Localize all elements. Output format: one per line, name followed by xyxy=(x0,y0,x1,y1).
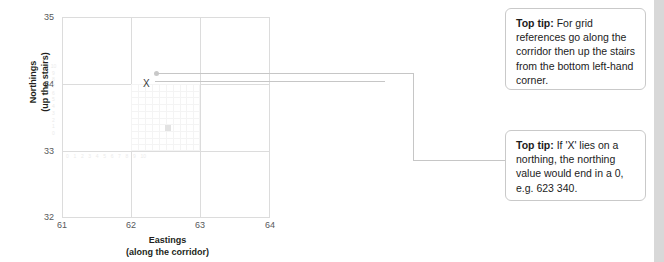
subgrid-x-label: 4 xyxy=(96,153,99,159)
subgrid-y-label: 6 xyxy=(52,91,55,96)
subgrid-y-label: 0 xyxy=(52,131,55,136)
plot-area xyxy=(62,17,270,218)
gridline-v-63 xyxy=(200,17,201,218)
callout-line-top-horizontal xyxy=(157,73,413,74)
x-tick-62: 62 xyxy=(119,220,143,230)
subgrid-y-label: 10 xyxy=(51,64,57,69)
subgrid-y-label: 4 xyxy=(52,104,55,109)
x-axis-title-main: Eastings xyxy=(60,234,275,246)
x-tick-64: 64 xyxy=(258,220,282,230)
gridline-h-35 xyxy=(62,17,270,18)
x-point-label: X xyxy=(143,78,150,89)
gridline-v-61 xyxy=(62,17,63,218)
subgrid-x-label: 6 xyxy=(111,153,114,159)
subgrid-x-label: 5 xyxy=(103,153,106,159)
tip-lead-2: Top tip: xyxy=(516,139,554,151)
subgrid-x-label: 7 xyxy=(118,153,121,159)
y-tick-35: 35 xyxy=(30,12,54,22)
x-tick-63: 63 xyxy=(188,220,212,230)
subgrid-overlay xyxy=(131,84,200,151)
gridline-v-64 xyxy=(269,17,270,218)
subgrid-x-label: 10 xyxy=(140,153,146,159)
subgrid-x-label: 8 xyxy=(126,153,129,159)
subgrid-x-label: 1 xyxy=(73,153,76,159)
page-edge-gutter-highlight xyxy=(652,0,654,262)
grid-reference-chart: 35 34 33 32 61 62 63 64 Northings (up th… xyxy=(0,0,330,262)
subgrid-x-labels: 0 1 2 3 4 5 6 7 8 9 10 xyxy=(66,150,146,161)
subgrid-y-label: 2 xyxy=(52,118,55,123)
x-axis-title-sub: (along the corridor) xyxy=(60,246,275,258)
tip-box-northing-value: Top tip: If 'X' lies on a northing, the … xyxy=(505,130,646,201)
gridline-h-32 xyxy=(62,217,270,218)
subgrid-x-label: 0 xyxy=(66,153,69,159)
square-data-marker xyxy=(165,125,171,131)
tip-box-grid-references: Top tip: For grid references go along th… xyxy=(505,8,646,90)
subgrid-y-label: 3 xyxy=(52,111,55,116)
subgrid-x-label: 9 xyxy=(133,153,136,159)
callout-line-bottom-horizontal xyxy=(413,160,506,161)
subgrid-x-label: 3 xyxy=(88,153,91,159)
x-tick-61: 61 xyxy=(50,220,74,230)
subgrid-y-label: 1 xyxy=(52,124,55,129)
subgrid-y-label: 5 xyxy=(52,97,55,102)
callout-line-x-horizontal xyxy=(155,81,385,82)
callout-line-vertical xyxy=(413,73,414,161)
y-axis-title-main: Northings xyxy=(27,22,39,142)
y-tick-33: 33 xyxy=(30,146,54,156)
subgrid-y-label: 8 xyxy=(52,77,55,82)
subgrid-y-labels: 10 9 8 7 6 5 4 3 2 1 0 xyxy=(48,64,59,136)
tip-lead-1: Top tip: xyxy=(516,17,554,29)
subgrid-y-label: 7 xyxy=(52,84,55,89)
subgrid-x-label: 2 xyxy=(81,153,84,159)
x-axis-title: Eastings (along the corridor) xyxy=(60,234,275,258)
screenshot-root: 35 34 33 32 61 62 63 64 Northings (up th… xyxy=(0,0,664,262)
subgrid-y-label: 9 xyxy=(52,71,55,76)
